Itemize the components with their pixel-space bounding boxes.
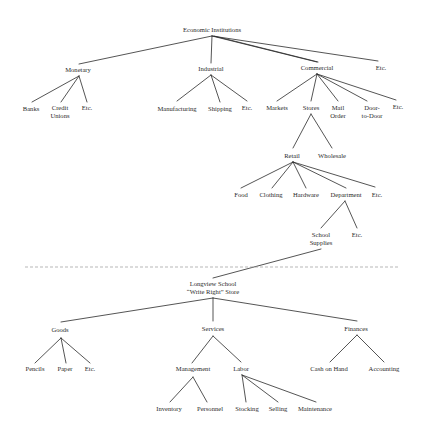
node-longview-store: Longview School “Write Right” Store [187,280,239,296]
node-retail: Retail [284,152,300,160]
node-labor: Labor [233,365,249,373]
node-cash-on-hand: Cash on Hand [310,365,347,373]
node-markets: Markets [266,104,288,112]
node-mail-order: Mail Order [330,104,345,120]
node-credit-unions: Credit Unions [50,104,69,120]
node-industrial: Industrial [198,65,223,73]
node-etc-department: Etc. [352,231,362,239]
node-accounting: Accounting [369,365,400,373]
node-economic-institutions: Economic Institutions [183,26,241,34]
node-goods: Goods [51,326,68,334]
node-etc-retail: Etc. [372,191,382,199]
node-door-line1: Door- [362,104,383,112]
node-etc-industrial: Etc. [242,104,252,112]
node-selling: Selling [269,405,288,413]
node-etc-top: Etc. [376,64,386,72]
node-etc-commercial: Etc. [393,103,403,111]
economic-institutions-tree-diagram: Economic Institutions Monetary Industria… [0,0,423,432]
node-paper: Paper [57,365,72,373]
node-door-to-door: Door- to-Door [362,104,383,120]
node-commercial: Commercial [301,64,334,72]
node-pencils: Pencils [25,365,44,373]
node-monetary: Monetary [65,66,91,74]
node-management: Management [176,365,210,373]
node-stores: Stores [303,104,319,112]
node-school-line1: School [310,231,333,239]
node-finances: Finances [344,325,367,333]
node-wholesale: Wholesale [318,152,346,160]
node-longview-line1: Longview School [187,280,239,288]
node-etc-goods: Etc. [85,365,95,373]
node-manufacturing: Manufacturing [157,105,196,113]
node-mail-line2: Order [330,112,345,120]
node-department: Department [330,191,361,199]
node-personnel: Personnel [197,405,223,413]
node-credit-line2: Unions [50,112,69,120]
node-credit-line1: Credit [50,104,69,112]
node-food: Food [234,191,248,199]
node-hardware: Hardware [293,191,319,199]
node-mail-line1: Mail [330,104,345,112]
node-door-line2: to-Door [362,112,383,120]
node-clothing: Clothing [259,191,282,199]
node-shipping: Shipping [208,105,232,113]
node-school-line2: Supplies [310,239,333,247]
node-stocking: Stocking [235,405,258,413]
node-school-supplies: School Supplies [310,231,333,247]
node-banks: Banks [23,105,39,113]
node-inventory: Inventory [156,405,182,413]
node-longview-line2: “Write Right” Store [187,288,239,296]
node-services: Services [202,325,224,333]
node-etc-monetary: Etc. [82,104,92,112]
node-maintenance: Maintenance [298,405,332,413]
